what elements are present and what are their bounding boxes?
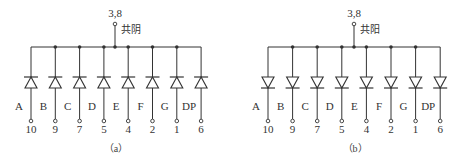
- pin-number: 9: [53, 123, 59, 135]
- segment-label: B: [277, 100, 284, 112]
- diode-icon: [384, 77, 398, 88]
- pin-number: 2: [388, 123, 394, 135]
- common-pin-number: 3,8: [108, 7, 122, 19]
- diode-icon: [121, 77, 135, 88]
- figure-caption: （b）: [343, 143, 368, 154]
- pin-number: 9: [290, 123, 296, 135]
- pin-number: 2: [150, 123, 156, 135]
- pin-number: 7: [314, 123, 320, 135]
- pin-number: 7: [77, 123, 83, 135]
- segment-label: E: [351, 100, 358, 112]
- junction-dot: [352, 45, 356, 49]
- segment-label: DP: [421, 100, 435, 112]
- segment-label: D: [88, 100, 96, 112]
- diode-icon: [73, 77, 87, 88]
- diode-icon: [48, 77, 62, 88]
- common-cathode-diagram: 3,8共阴10A9B7C5D4E2F1G6DP（a）: [15, 7, 208, 154]
- diode-icon: [97, 77, 111, 88]
- segment-label: C: [64, 100, 71, 112]
- figure-caption: （a）: [104, 143, 128, 154]
- diode-icon: [24, 77, 38, 88]
- common-pin-terminal: [113, 22, 117, 26]
- diode-icon: [194, 77, 208, 88]
- segment-label: C: [302, 100, 309, 112]
- pin-number: 6: [437, 123, 443, 135]
- diode-icon: [433, 77, 447, 88]
- pin-number: 1: [174, 123, 180, 135]
- diode-icon: [286, 77, 300, 88]
- common-anode-diagram: 3,8共阳10A9B7C5D4E2F1G6DP（b）: [252, 7, 447, 154]
- segment-label: F: [137, 100, 143, 112]
- common-pin-terminal: [352, 22, 356, 26]
- diode-icon: [261, 77, 275, 88]
- segment-label: F: [376, 100, 382, 112]
- segment-label: DP: [182, 100, 196, 112]
- segment-label: B: [40, 100, 47, 112]
- diode-icon: [359, 77, 373, 88]
- pin-number: 10: [26, 123, 38, 135]
- segment-label: A: [252, 100, 260, 112]
- common-type-label: 共阳: [360, 24, 380, 35]
- diode-icon: [146, 77, 160, 88]
- pin-number: 5: [339, 123, 345, 135]
- led-segment-diagrams: 3,8共阴10A9B7C5D4E2F1G6DP（a） 3,8共阳10A9B7C5…: [0, 0, 462, 167]
- pin-number: 6: [198, 123, 204, 135]
- segment-label: E: [113, 100, 120, 112]
- pin-number: 1: [413, 123, 419, 135]
- segment-label: G: [400, 100, 408, 112]
- pin-number: 10: [263, 123, 275, 135]
- diode-icon: [335, 77, 349, 88]
- common-pin-number: 3,8: [347, 7, 361, 19]
- diode-icon: [170, 77, 184, 88]
- segment-label: D: [326, 100, 334, 112]
- segment-label: A: [15, 100, 23, 112]
- diode-icon: [310, 77, 324, 88]
- pin-number: 5: [101, 123, 107, 135]
- junction-dot: [113, 45, 117, 49]
- diode-icon: [409, 77, 423, 88]
- segment-label: G: [161, 100, 169, 112]
- common-type-label: 共阴: [121, 24, 141, 35]
- pin-number: 4: [125, 123, 131, 135]
- pin-number: 4: [364, 123, 370, 135]
